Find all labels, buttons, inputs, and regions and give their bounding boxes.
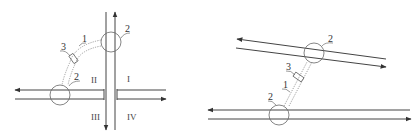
label-beam: 1 [283, 79, 288, 90]
detection-zone-top [304, 43, 324, 63]
figure: 1 3 2 2 I II III IV 2 3 1 [0, 0, 420, 139]
slanted-road-upper-line [237, 39, 386, 59]
detection-zone-bottom [50, 85, 70, 105]
left-diagram: 1 3 2 2 I II III IV [15, 12, 166, 130]
label-circle-bottom: 2 [74, 71, 79, 82]
sensor-device [293, 72, 304, 82]
right-diagram: 2 3 1 2 [208, 33, 411, 125]
quadrant-I: I [127, 74, 130, 84]
label-beam: 1 [82, 33, 87, 44]
label-circle-top: 2 [125, 23, 130, 34]
slanted-road-lower-line [236, 48, 386, 67]
label-circle-bottom: 2 [268, 91, 273, 102]
detection-zone-top [101, 32, 121, 52]
label-device: 3 [286, 61, 291, 72]
detection-zone-bottom [269, 105, 289, 125]
label-circle-top: 2 [328, 33, 333, 44]
quadrant-II: II [91, 75, 97, 85]
quadrant-IV: IV [127, 112, 137, 122]
sensor-beam-right [289, 62, 312, 106]
quadrant-III: III [91, 112, 100, 122]
label-device: 3 [61, 41, 66, 52]
